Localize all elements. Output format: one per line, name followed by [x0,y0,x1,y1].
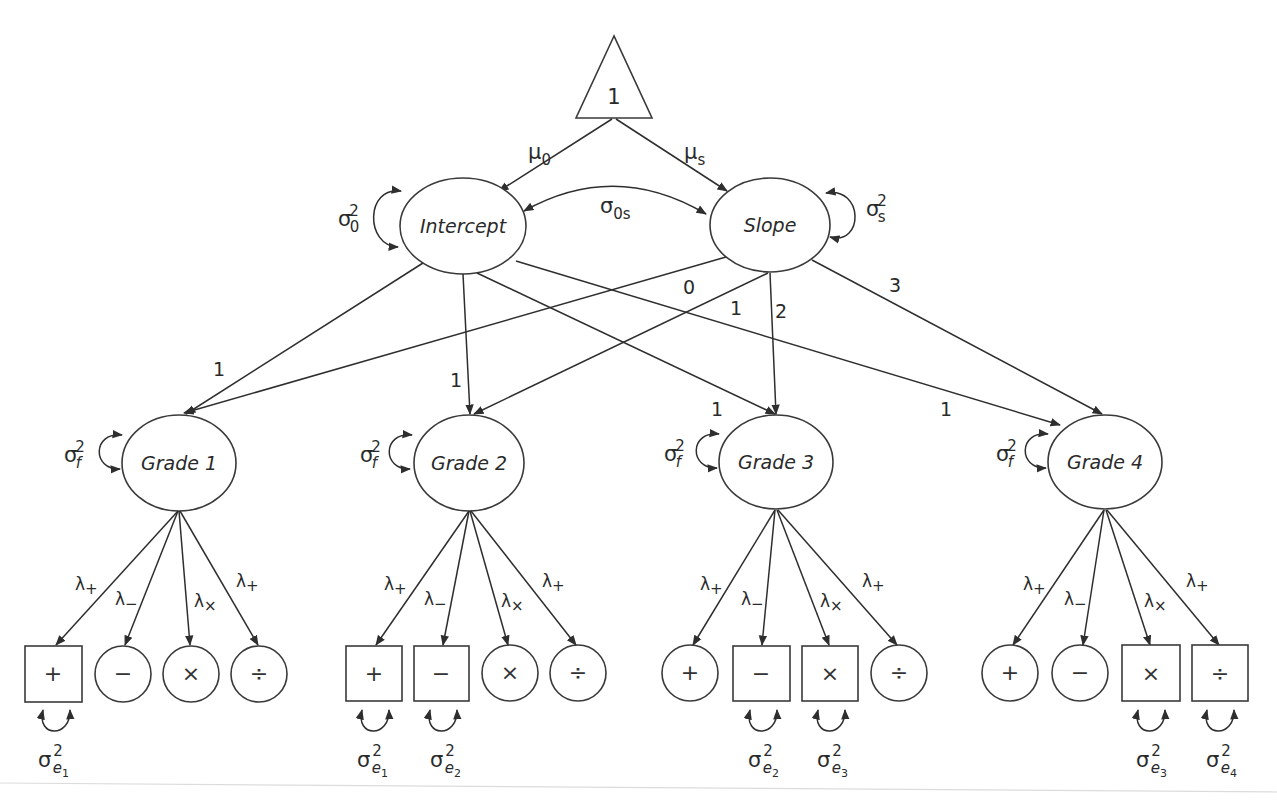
label-residual-grade3-mul: σ2e3 [817,742,848,780]
label-slope-grade1: 0 [683,276,695,298]
label-loading-grade3-div: λ+ [862,571,885,595]
label-loading-grade3-mul: λ× [820,591,843,615]
label-loading-grade3-add: λ+ [700,574,723,598]
op-add-label: + [681,660,699,685]
intercept-node: Intercept [400,178,526,274]
residual-arc-grade3-mul [817,710,845,731]
variance-arc-grade2 [389,435,412,469]
op-div-label: ÷ [569,660,587,685]
variance-arc-intercept [374,191,401,247]
grade4-cluster: Grade 4 σ2f λ+ λ− λ× λ+ + − × ÷ σ2e3 σ2e… [982,415,1248,780]
page-edge-divider [0,783,1277,792]
slope-label: Slope [744,214,797,236]
op-add-label: + [44,661,62,686]
op-div-label: ÷ [890,660,908,685]
label-loading-grade3-sub: λ− [741,589,764,613]
label-intercept-grade3: 1 [711,398,723,420]
label-var-intercept: σ20 [338,202,359,236]
path-mean-intercept [499,119,612,191]
op-sub-label: − [752,661,770,686]
label-covariance: σ0s [600,194,631,223]
intercept-label: Intercept [420,215,508,237]
label-var-grade4: σ2f [996,437,1017,471]
path-intercept-grade4 [516,261,1060,425]
label-slope-grade2: 1 [730,297,742,319]
label-loading-grade4-sub: λ− [1064,589,1087,613]
label-slope-grade3: 2 [775,300,787,322]
variance-arc-grade3 [696,434,719,468]
variance-arc-grade4 [1025,434,1048,468]
residual-arc-grade4-div [1206,710,1234,731]
sem-diagram: 1 μ0 μs σ0s Intercept σ20 Slope σ2s 1 1 … [0,0,1277,808]
label-residual-grade2-sub: σ2e2 [430,742,461,780]
label-residual-grade3-sub: σ2e2 [748,742,779,780]
label-var-grade1: σ2f [64,438,85,472]
loading-grade3-sub [762,510,775,645]
label-var-grade2: σ2f [360,438,381,472]
op-add-label: + [365,661,383,686]
grade2-label: Grade 2 [431,452,507,474]
variance-arc-grade1 [99,435,122,469]
label-intercept-grade1: 1 [213,358,225,380]
label-loading-grade4-add: λ+ [1023,574,1046,598]
grade2-cluster: Grade 2 σ2f λ+ λ− λ× λ+ + − × ÷ σ2e1 σ2e… [346,415,606,780]
residual-arc-grade3-sub [749,710,777,731]
constant-label: 1 [607,85,620,109]
op-mul-label: × [501,660,519,685]
residual-arc-grade2-sub [429,710,457,731]
label-loading-grade1-add: λ+ [75,574,98,598]
op-sub-label: − [432,661,450,686]
label-loading-grade2-div: λ+ [542,571,565,595]
op-mul-label: × [1142,661,1160,686]
label-loading-grade2-mul: λ× [501,591,524,615]
op-sub-label: − [1071,660,1089,685]
label-loading-grade2-add: λ+ [384,574,407,598]
loading-grade4-mul [1106,510,1150,645]
path-intercept-grade1 [186,263,423,414]
label-slope-grade4: 3 [889,274,901,296]
grade4-label: Grade 4 [1067,451,1143,473]
path-slope-grade2 [474,273,768,414]
label-loading-grade1-mul: λ× [194,591,217,615]
op-div-label: ÷ [1211,661,1229,686]
slope-node: Slope [710,178,830,272]
loading-grade4-sub [1083,510,1104,645]
loading-grade2-sub [443,511,469,645]
label-loading-grade4-mul: λ× [1144,591,1167,615]
op-mul-label: × [182,661,200,686]
label-intercept-grade4: 1 [940,398,952,420]
label-loading-grade2-sub: λ− [424,589,447,613]
loading-grade3-mul [777,510,829,645]
label-loading-grade4-div: λ+ [1186,571,1209,595]
residual-arc-grade2-add [361,710,389,731]
op-div-label: ÷ [250,661,268,686]
grade1-label: Grade 1 [141,452,217,474]
grade3-label: Grade 3 [738,451,814,473]
label-residual-grade2-add: σ2e1 [357,742,388,780]
label-var-slope: σ2s [866,192,887,226]
path-intercept-grade2 [463,274,470,414]
label-var-grade3: σ2f [664,437,685,471]
label-loading-grade1-sub: λ− [115,589,138,613]
label-intercept-grade2: 1 [450,369,462,391]
label-residual-grade4-div: σ2e4 [1206,742,1237,780]
label-loading-grade1-div: λ+ [236,571,259,595]
path-slope-grade4 [812,260,1102,414]
constant-node: 1 [576,36,652,118]
op-mul-label: × [821,661,839,686]
op-sub-label: − [114,661,132,686]
loading-grade2-mul [470,511,508,645]
residual-arc-grade1-add [42,710,70,731]
loading-grade1-sub [125,511,178,645]
grade1-cluster: Grade 1 σ2f λ+ λ− λ× λ+ + − × ÷ σ2e1 [25,415,287,780]
op-add-label: + [1001,660,1019,685]
label-residual-grade1-add: σ2e1 [38,742,69,780]
residual-arc-grade4-mul [1137,710,1165,731]
loading-grade1-mul [179,511,190,645]
path-slope-grade3 [770,273,776,414]
label-residual-grade4-mul: σ2e3 [1136,742,1167,780]
grade3-cluster: Grade 3 σ2f λ+ λ− λ× λ+ + − × ÷ σ2e2 σ2e… [662,415,927,780]
path-mean-slope [616,119,727,191]
